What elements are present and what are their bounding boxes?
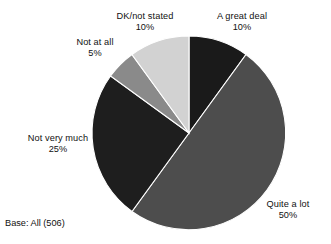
- slice-label-not-very-much: Not very much 25%: [9, 133, 107, 156]
- slice-label-quite-a-lot: Quite a lot 50%: [250, 199, 326, 222]
- slice-label-a-great-deal-name: A great deal: [200, 11, 284, 22]
- slice-label-not-at-all-name: Not at all: [57, 37, 133, 48]
- base-note: Base: All (506): [5, 218, 65, 229]
- pie-chart: DK/not stated 10% A great deal 10% Not a…: [0, 0, 331, 244]
- slice-label-dk-not-stated-name: DK/not stated: [103, 11, 187, 22]
- slice-label-a-great-deal: A great deal 10%: [200, 11, 284, 34]
- slice-label-dk-not-stated: DK/not stated 10%: [103, 11, 187, 34]
- slice-label-not-at-all-value: 5%: [57, 48, 133, 59]
- slice-label-not-very-much-value: 25%: [9, 144, 107, 155]
- slice-label-quite-a-lot-value: 50%: [250, 210, 326, 221]
- slice-label-quite-a-lot-name: Quite a lot: [250, 199, 326, 210]
- slice-label-not-very-much-name: Not very much: [9, 133, 107, 144]
- slice-label-dk-not-stated-value: 10%: [103, 22, 187, 33]
- slice-label-not-at-all: Not at all 5%: [57, 37, 133, 60]
- slice-label-a-great-deal-value: 10%: [200, 22, 284, 33]
